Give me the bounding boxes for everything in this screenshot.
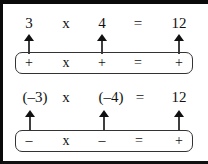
row-2-sign-a: –: [26, 134, 33, 148]
arrow-up-icon: [174, 110, 184, 130]
row-1-operand-b: 4: [98, 16, 106, 31]
row-1-sign-op: x: [63, 56, 70, 70]
row-1-equals: =: [134, 16, 142, 31]
row-2-sign-eq: =: [135, 134, 143, 148]
arrow-up-icon: [24, 34, 34, 54]
row-2-operand-a: (–3): [23, 90, 48, 105]
row-1-sign-result: +: [175, 56, 183, 70]
row-1-sign-b: +: [98, 56, 106, 70]
row-2-sign-result: +: [175, 134, 183, 148]
row-2-operator: x: [62, 90, 70, 105]
row-2-operand-b: (–4): [99, 90, 124, 105]
row-1-result: 12: [172, 16, 187, 31]
row-2-sign-b: –: [99, 134, 106, 148]
row-1-sign-eq: =: [134, 56, 142, 70]
row-2-equals: =: [136, 90, 144, 105]
row-2-sign-op: x: [63, 134, 70, 148]
row-1-operator: x: [62, 16, 70, 31]
arrow-up-icon: [99, 110, 109, 130]
row-1-sign-a: +: [25, 56, 33, 70]
arrow-up-icon: [174, 34, 184, 54]
arrow-up-icon: [97, 34, 107, 54]
row-2-result: 12: [172, 90, 187, 105]
row-1-operand-a: 3: [25, 16, 33, 31]
arrow-up-icon: [25, 110, 35, 130]
